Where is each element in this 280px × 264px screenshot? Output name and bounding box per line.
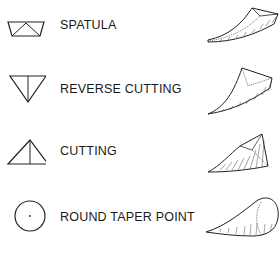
spatula-needle-icon xyxy=(200,2,280,62)
spatula-label: SPATULA xyxy=(60,18,117,32)
round-taper-point-row: ROUND TAPER POINT xyxy=(0,194,280,244)
reverse-cutting-needle-icon xyxy=(200,64,280,124)
cutting-row: CUTTING xyxy=(0,130,280,180)
cutting-needle-icon xyxy=(200,130,280,190)
cutting-cross-section-icon xyxy=(6,134,46,170)
spatula-row: SPATULA xyxy=(0,4,280,54)
round-taper-point-label: ROUND TAPER POINT xyxy=(60,210,195,224)
reverse-cutting-row: REVERSE CUTTING xyxy=(0,66,280,116)
round-taper-point-needle-icon xyxy=(200,190,280,250)
cutting-label: CUTTING xyxy=(60,144,117,158)
spatula-cross-section-icon xyxy=(6,14,46,50)
round-taper-point-cross-section-icon xyxy=(6,198,46,234)
reverse-cutting-cross-section-icon xyxy=(6,72,46,108)
reverse-cutting-label: REVERSE CUTTING xyxy=(60,82,182,96)
